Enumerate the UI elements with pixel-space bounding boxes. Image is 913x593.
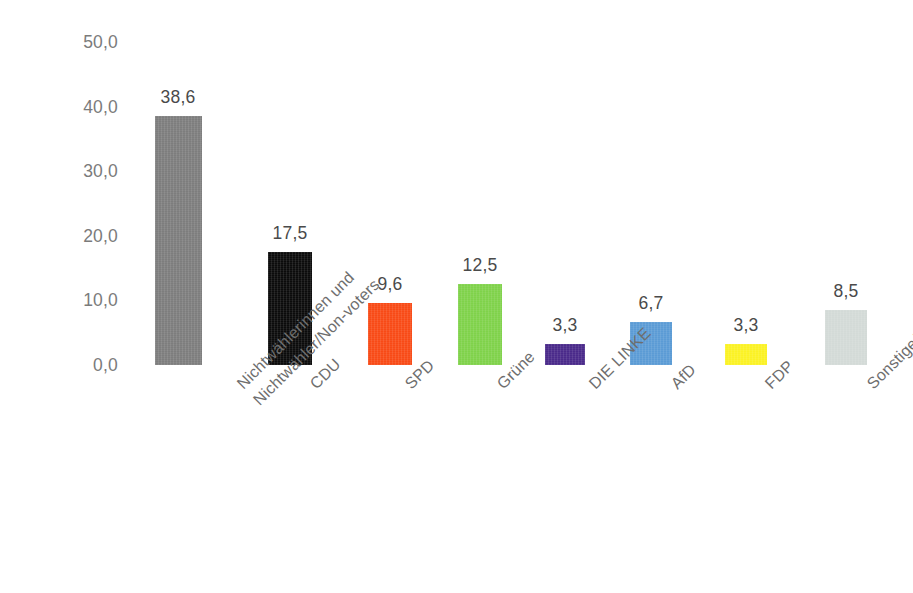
x-axis-category-label: AfD — [666, 378, 683, 395]
x-axis-category-label-line: Grüne — [492, 378, 509, 395]
x-axis-category-label-line: CDU — [305, 378, 322, 395]
x-axis-category-label: FDP — [760, 378, 777, 395]
x-axis-category-label: Nichtwählerinnen undNichtwähler/Non-vote… — [232, 378, 265, 411]
x-axis-category-label-line: AfD — [666, 378, 683, 395]
x-axis-category-label: CDU — [305, 378, 322, 395]
x-axis-category-label-line: Nichtwähler/Non-voters — [248, 394, 265, 411]
plot-area: 0,010,020,030,040,050,0 38,617,59,612,53… — [0, 0, 913, 593]
x-axis-category-labels: Nichtwählerinnen undNichtwähler/Non-vote… — [0, 0, 913, 593]
x-axis-category-label: Sonstige/Others — [862, 378, 879, 395]
x-axis-category-label: DIE LINKE — [584, 378, 601, 395]
x-axis-category-label-line: DIE LINKE — [584, 378, 601, 395]
x-axis-category-label-line: Sonstige/Others — [862, 378, 879, 395]
bar-chart: 0,010,020,030,040,050,0 38,617,59,612,53… — [0, 0, 913, 593]
x-axis-category-label: Grüne — [492, 378, 509, 395]
x-axis-category-label: SPD — [400, 378, 417, 395]
x-axis-category-label-line: FDP — [760, 378, 777, 395]
x-axis-category-label-line: SPD — [400, 378, 417, 395]
x-axis-category-label-line: Nichtwählerinnen und — [232, 378, 249, 395]
